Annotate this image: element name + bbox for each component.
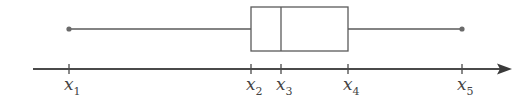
maximum-dot <box>459 26 464 31</box>
label-x2: x2 <box>246 74 263 98</box>
interquartile-box <box>251 7 348 51</box>
box-plot-diagram: x1x2x3x4x5 <box>0 0 521 101</box>
label-x1: x1 <box>64 74 81 98</box>
label-x3: x3 <box>276 74 293 98</box>
label-x4: x4 <box>343 74 360 98</box>
minimum-dot <box>66 26 71 31</box>
label-x5: x5 <box>457 74 474 98</box>
axis-labels: x1x2x3x4x5 <box>64 74 474 98</box>
